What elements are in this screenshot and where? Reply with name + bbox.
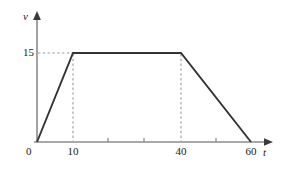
x-tick-label-60: 60 [242,146,260,157]
y-axis [33,11,41,142]
x-axis-label: t [263,147,266,158]
guide-lines [38,53,181,141]
y-axis-label: v [23,11,28,22]
x-tick-label-10: 10 [64,146,82,157]
x-tick-label-40: 40 [172,146,190,157]
plot-canvas [0,0,291,169]
velocity-time-graph-figure: v t 0 15 10 40 60 [0,0,291,169]
velocity-curve [37,53,251,142]
y-tick-label-15: 15 [20,47,34,58]
origin-label: 0 [26,146,32,157]
